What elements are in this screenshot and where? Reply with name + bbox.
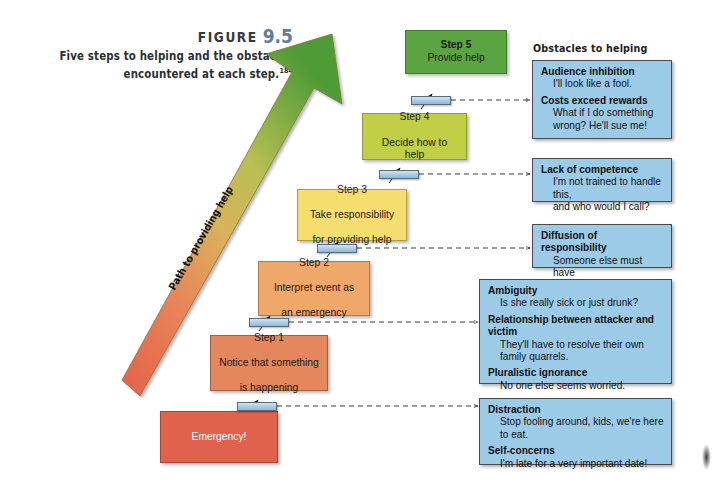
step3-text: Step 3Take responsibilityfor providing h… xyxy=(302,184,402,247)
barrier-step2-step3 xyxy=(317,244,357,253)
step-box-step5[interactable]: Step 5Provide help xyxy=(405,30,507,74)
obstacle-body: Someone else must have xyxy=(541,255,664,280)
obstacle-title: Relationship between attacker and victim xyxy=(488,314,664,339)
step3-line2: Take responsibility xyxy=(306,209,398,222)
obstacle-body: and who would I call? xyxy=(541,201,664,213)
step-box-step4[interactable]: Step 4Decide how to help xyxy=(362,113,467,160)
step5-text: Step 5Provide help xyxy=(419,39,492,64)
obstacle-box-step5[interactable]: Audience inhibition I'll look like a foo… xyxy=(532,60,672,139)
step-box-emergency[interactable]: Emergency! xyxy=(160,411,278,463)
obstacle-title: Diffusion of responsibility xyxy=(541,230,664,255)
step1-title: Step 1 xyxy=(215,332,323,345)
step-box-step3[interactable]: Step 3Take responsibilityfor providing h… xyxy=(297,189,407,241)
obstacle-body: What if I do something xyxy=(541,107,664,119)
obstacle-body: Is she really sick or just drunk? xyxy=(488,297,664,309)
obstacle-title: Costs exceed rewards xyxy=(541,95,664,107)
barrier-step4-step5 xyxy=(411,96,451,105)
obstacle-box-step2[interactable]: Ambiguity Is she really sick or just dru… xyxy=(479,279,672,384)
figure-canvas: FIGURE9.5 Five steps to helping and the … xyxy=(0,0,715,486)
step4-title: Step 4 xyxy=(367,111,462,124)
obstacle-title: Pluralistic ignorance xyxy=(488,367,664,379)
obstacle-body: I'm not trained to handle this, xyxy=(541,176,664,201)
obstacle-body: I'm late for a very important date! xyxy=(488,458,664,470)
emergency-label: Emergency! xyxy=(188,431,251,444)
obstacle-body: They'll have to resolve their own xyxy=(488,339,664,351)
obstacle-box-step4[interactable]: Lack of competence I'm not trained to ha… xyxy=(532,158,672,202)
obstacle-body: No one else seems worried. xyxy=(488,380,664,392)
obstacle-title: Self-concerns xyxy=(488,445,664,457)
step4-line2: Decide how to help xyxy=(367,137,462,162)
obstacle-body: Stop fooling around, kids, we're here to… xyxy=(488,416,664,441)
barrier-step3-step4 xyxy=(379,170,419,179)
step4-text: Step 4Decide how to help xyxy=(363,111,466,161)
obstacle-box-step3[interactable]: Diffusion of responsibility Someone else… xyxy=(532,224,672,268)
obstacle-body: family quarrels. xyxy=(488,351,664,363)
barrier-step1-step2 xyxy=(249,318,289,327)
step2-text: Step 2Interpret event asan emergency xyxy=(266,257,362,320)
page-edge-artifact xyxy=(702,444,711,470)
step2-line2: Interpret event as xyxy=(270,282,358,295)
barrier-emergency-step1 xyxy=(237,402,277,411)
obstacle-title: Lack of competence xyxy=(541,164,664,176)
step-box-step2[interactable]: Step 2Interpret event asan emergency xyxy=(258,261,370,316)
step5-line2: Provide help xyxy=(423,52,488,65)
obstacle-body: I'll look like a fool. xyxy=(541,78,664,90)
obstacle-title: Ambiguity xyxy=(488,285,664,297)
step1-line2: Notice that something xyxy=(215,357,323,370)
step5-title: Step 5 xyxy=(441,39,472,50)
obstacle-body: wrong? He'll sue me! xyxy=(541,120,664,132)
step3-title: Step 3 xyxy=(306,184,398,197)
step-box-step1[interactable]: Step 1Notice that somethingis happening xyxy=(210,335,328,391)
obstacle-box-step1[interactable]: Distraction Stop fooling around, kids, w… xyxy=(479,398,672,465)
step1-line3: is happening xyxy=(215,382,323,395)
step1-text: Step 1Notice that somethingis happening xyxy=(211,332,327,395)
obstacle-title: Audience inhibition xyxy=(541,66,664,78)
obstacle-title: Distraction xyxy=(488,404,664,416)
step2-title: Step 2 xyxy=(270,257,358,270)
obstacles-header: Obstacles to helping xyxy=(533,42,648,54)
